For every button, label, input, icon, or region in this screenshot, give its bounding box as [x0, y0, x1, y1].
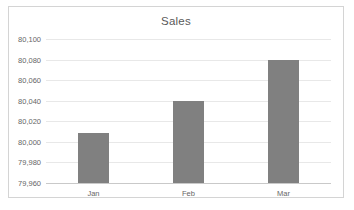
plot-area: 79,96079,98080,00080,02080,04080,06080,0…: [46, 39, 331, 183]
gridline: [46, 39, 331, 40]
y-axis-tick-label: 80,100: [18, 35, 41, 44]
y-axis-tick-label: 80,040: [18, 96, 41, 105]
x-axis-tick-label: Jan: [87, 189, 99, 198]
bar-feb: [173, 101, 204, 183]
x-axis-tick-label: Feb: [182, 189, 195, 198]
y-axis-tick-label: 80,020: [18, 117, 41, 126]
bar-mar: [268, 60, 299, 183]
x-axis-tick-label: Mar: [277, 189, 290, 198]
chart-title: Sales: [9, 15, 343, 27]
bar-jan: [78, 133, 109, 183]
y-axis-tick-label: 80,060: [18, 76, 41, 85]
chart-container: Sales 79,96079,98080,00080,02080,04080,0…: [8, 6, 344, 198]
y-axis-tick-label: 79,960: [18, 179, 41, 188]
gridline: [46, 183, 331, 184]
y-axis-tick-label: 79,980: [18, 158, 41, 167]
y-axis-tick-label: 80,000: [18, 137, 41, 146]
y-axis-tick-label: 80,080: [18, 55, 41, 64]
